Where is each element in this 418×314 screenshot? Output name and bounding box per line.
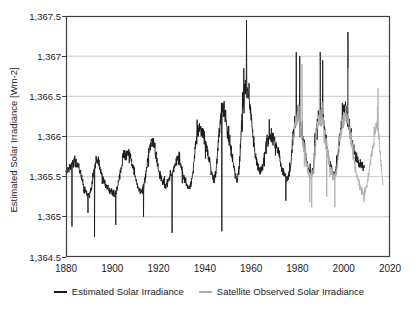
y-tick-label: 1,364.5 xyxy=(0,252,61,263)
y-tick-label: 1,365.5 xyxy=(0,171,61,182)
satellite-series-line xyxy=(293,56,383,207)
x-tick-label: 1980 xyxy=(275,263,319,274)
x-tick-label: 1880 xyxy=(44,263,88,274)
solar-irradiance-chart: Estimated Solar Irradiance [Wm-2] 1,364.… xyxy=(0,0,418,314)
legend-item-estimated: Estimated Solar Irradiance xyxy=(54,286,184,297)
x-tick-label: 1900 xyxy=(90,263,134,274)
legend-label-satellite: Satellite Observed Solar Irradiance xyxy=(217,286,364,297)
x-tick-label: 2000 xyxy=(322,263,366,274)
y-tick-label: 1,366.5 xyxy=(0,91,61,102)
x-tick-label: 1920 xyxy=(137,263,181,274)
y-tick-label: 1,367 xyxy=(0,51,61,62)
estimated-series-line xyxy=(66,20,365,237)
legend-item-satellite: Satellite Observed Solar Irradiance xyxy=(199,286,364,297)
legend-label-estimated: Estimated Solar Irradiance xyxy=(72,286,184,297)
x-tick-label: 1960 xyxy=(229,263,273,274)
x-tick-label: 1940 xyxy=(183,263,227,274)
y-tick-label: 1,367.5 xyxy=(0,11,61,22)
y-tick-label: 1,365 xyxy=(0,211,61,222)
legend-swatch-satellite xyxy=(199,291,212,293)
legend: Estimated Solar IrradianceSatellite Obse… xyxy=(0,286,418,297)
plot-area xyxy=(66,16,390,257)
legend-swatch-estimated xyxy=(54,291,67,293)
y-tick-label: 1,366 xyxy=(0,131,61,142)
x-tick-label: 2020 xyxy=(368,263,412,274)
